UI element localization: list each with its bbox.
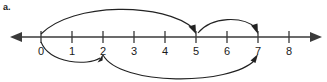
axis-left-arrow-icon [10, 32, 22, 42]
tick-label-4: 4 [162, 45, 168, 57]
jump-arc-path-2-to-7 [103, 55, 255, 79]
jump-arc-path-5-to-7 [198, 20, 256, 33]
tick-label-6: 6 [224, 45, 230, 57]
tick-label-3: 3 [131, 45, 137, 57]
jump-arc-5-to-7-above [198, 20, 258, 34]
jump-arc-0-to-5-above [41, 9, 196, 34]
tick-label-1: 1 [69, 45, 75, 57]
number-line-diagram: 0 1 2 3 4 5 6 7 8 [0, 0, 327, 82]
axis-right-arrow-icon [310, 32, 322, 42]
tick-labels-group: 0 1 2 3 4 5 6 7 8 [38, 45, 292, 57]
tick-label-7: 7 [255, 45, 261, 57]
tick-label-8: 8 [286, 45, 292, 57]
tick-label-5: 5 [193, 45, 199, 57]
number-line-figure: a. 0 1 2 3 4 5 6 7 [0, 0, 327, 82]
jump-arc-path-0-to-5 [41, 9, 194, 34]
jump-arc-2-to-7-below [103, 54, 258, 79]
axis-group [10, 32, 322, 42]
